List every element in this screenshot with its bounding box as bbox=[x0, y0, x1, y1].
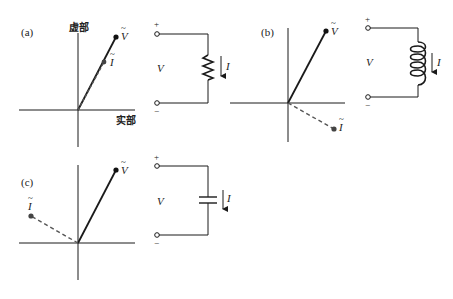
panel-b-label: (b) bbox=[261, 26, 274, 39]
terminal-bottom bbox=[155, 233, 160, 238]
phasor-v-line bbox=[78, 170, 116, 243]
terminal-plus-label: + bbox=[154, 152, 159, 162]
terminal-top bbox=[155, 32, 160, 37]
voltage-label: V bbox=[366, 56, 374, 68]
terminal-minus-label: − bbox=[154, 106, 159, 116]
current-label: I bbox=[225, 60, 231, 72]
phasor-i-line bbox=[31, 216, 78, 243]
terminal-minus-label: − bbox=[365, 100, 370, 110]
inductor-coil-icon bbox=[411, 42, 426, 85]
phasor-i-line bbox=[288, 103, 334, 129]
resistor-icon bbox=[203, 55, 213, 80]
current-label: I bbox=[436, 56, 442, 68]
phasor-i-tilde: ~ bbox=[110, 49, 115, 59]
phasor-v-tilde: ~ bbox=[121, 23, 126, 33]
panel-a: (a) 虚部 实部 V ~ I ~ + − V I bbox=[19, 19, 231, 147]
phasor-i-tilde: ~ bbox=[28, 193, 33, 203]
panel-c-label: (c) bbox=[21, 176, 34, 189]
terminal-bottom bbox=[155, 101, 160, 106]
phasor-i-dot bbox=[28, 213, 33, 218]
panel-c: (c) V ~ I ~ + − V I bbox=[19, 152, 232, 280]
circuit-capacitor: + − V I bbox=[154, 152, 232, 248]
terminal-plus-label: + bbox=[154, 19, 159, 29]
phasor-v-dot bbox=[113, 34, 118, 39]
phasor-v-tilde: ~ bbox=[121, 157, 126, 167]
terminal-plus-label: + bbox=[365, 14, 370, 24]
current-label: I bbox=[226, 192, 232, 204]
circuit-resistor: + − V I bbox=[154, 19, 231, 116]
phasor-v-line bbox=[288, 31, 326, 103]
phasor-diagram-figure: (a) 虚部 实部 V ~ I ~ + − V I (b) bbox=[0, 0, 453, 299]
real-axis-label: 实部 bbox=[116, 114, 136, 126]
phasor-i-dot bbox=[331, 126, 336, 131]
voltage-label: V bbox=[157, 195, 165, 207]
terminal-minus-label: − bbox=[154, 238, 159, 248]
panel-a-label: (a) bbox=[21, 26, 34, 39]
imag-axis-label: 虚部 bbox=[69, 21, 89, 33]
terminal-top bbox=[155, 164, 160, 169]
phasor-i-tilde: ~ bbox=[339, 114, 344, 124]
voltage-label: V bbox=[157, 62, 165, 74]
terminal-top bbox=[366, 26, 371, 31]
terminal-bottom bbox=[366, 95, 371, 100]
panel-b: (b) V ~ I ~ + − V I bbox=[230, 14, 442, 142]
phasor-v-dot bbox=[323, 28, 328, 33]
circuit-inductor: + − V I bbox=[365, 14, 442, 110]
phasor-v-tilde: ~ bbox=[331, 18, 336, 28]
phasor-v-dot bbox=[113, 167, 118, 172]
phasor-i-dot bbox=[102, 60, 107, 65]
